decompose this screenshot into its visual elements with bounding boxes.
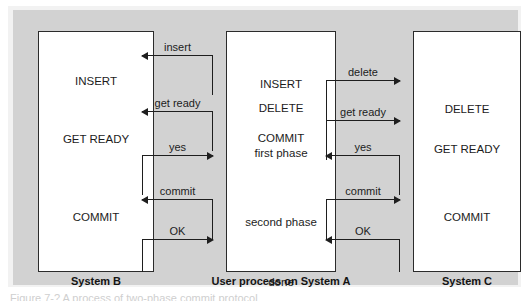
message-delete-a-to-c: delete: [326, 69, 400, 84]
message-get-ready-a-to-c: get ready: [326, 109, 400, 124]
message-get-ready-a-to-b: get ready: [142, 100, 213, 115]
arrow-line: [142, 111, 213, 112]
arrow-line: [142, 55, 213, 56]
stub-ok-left: [142, 239, 143, 272]
figure-caption-partial: Figure 7-? A process of two-phase commit…: [10, 292, 350, 301]
arrow-line: [326, 199, 400, 200]
system-a-label-second-phase: second phase: [227, 216, 335, 229]
message-label: commit: [326, 185, 400, 197]
message-label: get ready: [142, 97, 213, 109]
arrow-line: [142, 199, 213, 200]
message-label: insert: [142, 41, 213, 53]
stub-ok-right: [399, 239, 400, 272]
message-label: commit: [142, 185, 213, 197]
message-label: get ready: [326, 106, 400, 118]
system-b-op-get-ready: GET READY: [39, 133, 153, 146]
system-b-op-commit: COMMIT: [39, 211, 153, 224]
system-a-label-first-phase: first phase: [227, 147, 335, 160]
message-yes-c-to-a: yes: [326, 144, 400, 159]
process-box-system-c: DELETE GET READY COMMIT: [413, 31, 521, 272]
message-commit-a-to-c: commit: [326, 188, 400, 203]
label-system-a: User process on System A: [196, 275, 366, 287]
message-label: yes: [142, 141, 213, 153]
two-phase-commit-diagram: INSERT GET READY COMMIT INSERT DELETE CO…: [0, 0, 529, 302]
message-commit-a-to-b: commit: [142, 188, 213, 203]
arrow-line: [142, 155, 213, 156]
message-insert-a-to-b: insert: [142, 44, 213, 59]
process-box-system-a: INSERT DELETE COMMIT first phase second …: [226, 31, 336, 272]
system-a-op-delete: DELETE: [227, 102, 335, 115]
diagram-canvas: INSERT GET READY COMMIT INSERT DELETE CO…: [13, 10, 518, 285]
message-label: yes: [326, 141, 400, 153]
arrow-line: [326, 120, 400, 121]
message-yes-b-to-a: yes: [142, 144, 213, 159]
arrow-line: [326, 80, 400, 81]
arrow-line: [326, 239, 400, 240]
system-a-op-insert: INSERT: [227, 78, 335, 91]
stub-insert-left: [212, 55, 213, 95]
label-system-c: System C: [413, 275, 521, 287]
message-label: OK: [142, 225, 213, 237]
system-b-op-insert: INSERT: [39, 75, 153, 88]
message-ok-c-to-a: OK: [326, 228, 400, 243]
arrow-line: [142, 239, 213, 240]
system-c-op-commit: COMMIT: [414, 211, 520, 224]
message-label: OK: [326, 225, 400, 237]
system-c-op-delete: DELETE: [414, 103, 520, 116]
message-label: delete: [326, 66, 400, 78]
message-ok-b-to-a: OK: [142, 228, 213, 243]
label-system-b: System B: [38, 275, 154, 287]
system-c-op-get-ready: GET READY: [414, 143, 520, 156]
arrow-line: [326, 155, 400, 156]
process-box-system-b: INSERT GET READY COMMIT: [38, 31, 154, 272]
system-a-op-commit: COMMIT: [227, 132, 335, 145]
